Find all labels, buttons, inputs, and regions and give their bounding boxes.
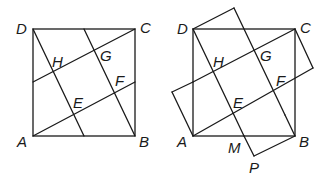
label-e: E: [233, 94, 244, 111]
right-figure: D C B A H G F E M P: [172, 8, 313, 176]
segment-p-to-m: [244, 136, 254, 156]
segment-b-to-p: [254, 136, 295, 156]
label-a: A: [176, 133, 187, 150]
label-g: G: [260, 47, 272, 64]
label-g: G: [100, 47, 112, 64]
segment-left-to-a: [172, 92, 193, 136]
label-m: M: [228, 139, 241, 156]
segment-bc-mid-to-a: [33, 82, 135, 136]
segment-d-to-ab-mid: [33, 29, 84, 136]
label-d: D: [16, 20, 27, 37]
label-f: F: [115, 72, 125, 89]
label-h: H: [213, 53, 224, 70]
geometry-diagram: D C B A H G F E D C B A H G F: [0, 0, 314, 179]
label-e: E: [73, 94, 84, 111]
segment-d-to-m: [193, 29, 244, 136]
label-c: C: [300, 19, 311, 36]
label-d: D: [177, 20, 188, 37]
label-b: B: [139, 133, 149, 150]
segment-d-to-top: [193, 8, 234, 29]
label-p: P: [249, 159, 259, 176]
label-h: H: [52, 53, 63, 70]
label-b: B: [299, 133, 309, 150]
segment-left-ext: [172, 82, 193, 92]
label-f: F: [276, 72, 286, 89]
segment-cd-mid-to-b: [84, 29, 135, 136]
label-c: C: [140, 19, 151, 36]
left-figure: D C B A H G F E: [16, 19, 151, 150]
label-a: A: [16, 133, 27, 150]
